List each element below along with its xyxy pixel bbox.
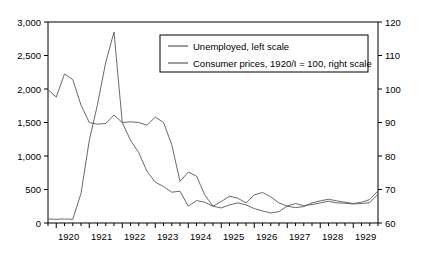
x-axis-tick-labels: 1920192119221923192419251926192719281929 <box>58 231 376 242</box>
right-axis-tick-labels: 60708090100110120 <box>385 17 401 229</box>
legend-label-consumer-prices: Consumer prices, 1920/I = 100, right sca… <box>193 58 372 69</box>
left-tick-label: 2,500 <box>17 50 41 61</box>
left-axis-tick-marks <box>44 22 48 223</box>
right-tick-label: 110 <box>385 50 400 61</box>
x-axis-tick-marks <box>48 223 378 228</box>
left-tick-label: 0 <box>36 218 41 229</box>
right-tick-label: 70 <box>385 184 396 195</box>
series-line-consumer-prices <box>48 74 378 213</box>
right-tick-label: 90 <box>385 117 396 128</box>
left-tick-label: 2,000 <box>17 84 41 95</box>
left-tick-label: 1,000 <box>17 151 41 162</box>
chart-legend: Unemployed, left scale Consumer prices, … <box>160 35 372 72</box>
x-tick-label: 1926 <box>256 231 277 242</box>
right-tick-label: 100 <box>385 84 401 95</box>
left-tick-label: 1,500 <box>17 117 41 128</box>
x-tick-label: 1920 <box>58 231 79 242</box>
left-axis-tick-labels: 05001,0001,5002,0002,5003,000 <box>17 17 41 229</box>
x-tick-label: 1928 <box>322 231 343 242</box>
x-tick-label: 1921 <box>91 231 112 242</box>
x-tick-label: 1925 <box>223 231 244 242</box>
x-tick-label: 1929 <box>355 231 376 242</box>
right-tick-label: 60 <box>385 218 396 229</box>
right-tick-label: 120 <box>385 17 401 28</box>
line-chart: 05001,0001,5002,0002,5003,000 6070809010… <box>0 0 427 265</box>
x-tick-label: 1927 <box>289 231 310 242</box>
x-tick-label: 1922 <box>124 231 145 242</box>
legend-label-unemployed: Unemployed, left scale <box>193 41 289 52</box>
left-tick-label: 500 <box>25 184 41 195</box>
chart-figure: 05001,0001,5002,0002,5003,000 6070809010… <box>0 0 427 265</box>
x-tick-label: 1923 <box>157 231 178 242</box>
left-tick-label: 3,000 <box>17 17 41 28</box>
right-tick-label: 80 <box>385 151 396 162</box>
x-tick-label: 1924 <box>190 231 211 242</box>
right-axis-tick-marks <box>378 22 382 223</box>
